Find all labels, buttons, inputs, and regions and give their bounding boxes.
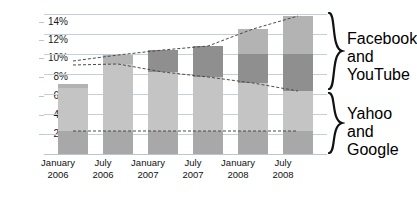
lower-brace-icon (327, 92, 345, 154)
x-axis-line (44, 154, 327, 155)
plot-area (44, 14, 327, 154)
x-tick-label-july-2008: July 2008 (246, 157, 320, 180)
lower-brace-label: Yahoo and Google (347, 105, 399, 159)
lower-brace-label-line3: Google (347, 141, 399, 159)
lower-brace-label-line2: and (347, 123, 399, 141)
facebook-youtube-lower-trend-line (73, 64, 298, 91)
lower-brace-label-line1: Yahoo (347, 105, 399, 123)
upper-brace-label-line3: YouTube (347, 66, 417, 84)
upper-brace-label: Facebook and YouTube (347, 30, 417, 84)
upper-brace-label-line2: and (347, 48, 417, 66)
trend-lines (44, 14, 327, 154)
upper-brace-label-line1: Facebook (347, 30, 417, 48)
x-tick-label-line2: 2008 (246, 169, 320, 181)
upper-brace-icon (327, 12, 345, 90)
x-tick-label-line1: July (246, 157, 320, 169)
total-top-trend-line (73, 16, 298, 61)
